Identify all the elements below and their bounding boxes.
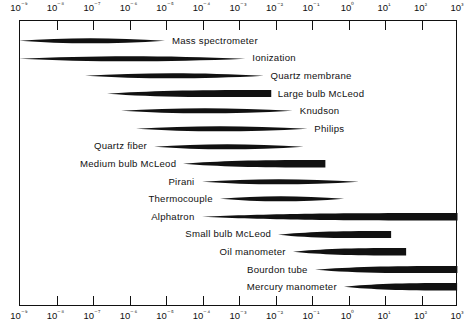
axis-tick-label--4: 10⁻⁴: [193, 310, 211, 321]
axis-tick-label-1: 10¹: [378, 310, 391, 321]
gauge-label: Quartz membrane: [271, 70, 352, 81]
pressure-gauge-range-chart: 10⁻⁹10⁻⁸10⁻⁷10⁻⁶10⁻⁵10⁻⁴10⁻³10⁻²10⁻¹10⁰1…: [0, 0, 475, 334]
gauge-label: Bourdon tube: [247, 264, 308, 275]
gauge-label: Ionization: [252, 52, 296, 63]
gauge-label: Small bulb McLeod: [185, 228, 271, 239]
gauge-label: Thermocouple: [148, 193, 212, 204]
axis-tick-label--6: 10⁻⁶: [120, 310, 137, 321]
axis-tick-label--7: 10⁻⁷: [83, 310, 100, 321]
bottom-axis-tick-labels: 10⁻⁹10⁻⁸10⁻⁷10⁻⁶10⁻⁵10⁻⁴10⁻³10⁻²10⁻¹10⁰1…: [0, 310, 475, 332]
gauge-label: Mass spectrometer: [172, 35, 258, 46]
gauge-label: Knudson: [300, 105, 340, 116]
axis-tick-label-2: 10²: [414, 310, 427, 321]
gauge-label: Alphatron: [151, 211, 194, 222]
gauge-label: Mercury manometer: [247, 281, 337, 292]
gauge-label: Pirani: [168, 176, 194, 187]
axis-tick-label--9: 10⁻⁹: [10, 310, 28, 321]
gauge-label: Philips: [314, 123, 344, 134]
axis-tick-label--3: 10⁻³: [230, 310, 247, 321]
axis-tick-label-0: 10⁰: [341, 310, 355, 321]
axis-tick-label--2: 10⁻²: [266, 310, 283, 321]
bar-labels-layer: Mass spectrometerIonizationQuartz membra…: [0, 0, 475, 334]
axis-tick-label--5: 10⁻⁵: [156, 310, 173, 321]
axis-tick-label--8: 10⁻⁸: [47, 310, 64, 321]
axis-tick-label-3: 10³: [451, 310, 464, 321]
gauge-label: Large bulb McLeod: [278, 88, 364, 99]
gauge-label: Oil manometer: [220, 246, 286, 257]
axis-tick-label--1: 10⁻¹: [303, 310, 320, 321]
gauge-label: Quartz fiber: [94, 140, 147, 151]
gauge-label: Medium bulb McLeod: [80, 158, 176, 169]
